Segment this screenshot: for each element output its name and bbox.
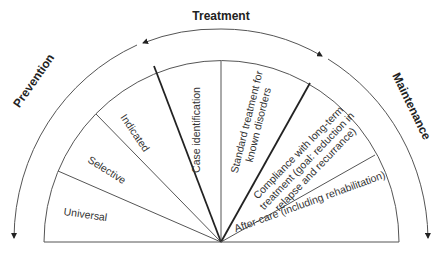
phase-label-maintenance: Maintenance bbox=[389, 71, 434, 143]
treatment-arrow-right bbox=[221, 29, 322, 56]
phase-label-treatment: Treatment bbox=[192, 9, 249, 23]
segment-label-indicated: Indicated bbox=[118, 112, 152, 154]
phase-label-prevention: Prevention bbox=[10, 51, 57, 110]
segment-label-selective: Selective bbox=[86, 153, 129, 186]
intervention-spectrum-diagram: Treatment Prevention Maintenance Univers… bbox=[0, 0, 442, 256]
divider-universal-selective bbox=[58, 171, 221, 242]
segment-label-universal: Universal bbox=[63, 205, 108, 223]
segment-label-case-identification: Case identification bbox=[190, 87, 202, 173]
treatment-arrow-left bbox=[143, 29, 221, 43]
segment-label-standard-treatment: Standard treatment for known disorders bbox=[228, 69, 277, 177]
divider-prevention-treatment bbox=[154, 66, 221, 242]
